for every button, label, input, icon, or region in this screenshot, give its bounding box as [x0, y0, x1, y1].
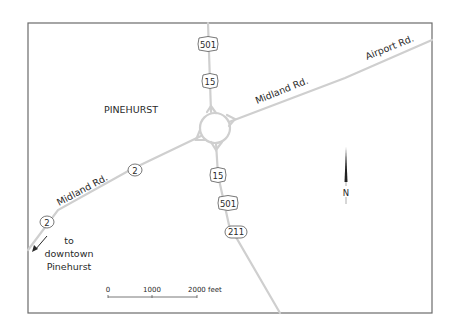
scale-tick-2000: 2000 feet — [188, 286, 222, 294]
shield-text: 2 — [132, 166, 137, 176]
shield-text: 211 — [228, 227, 244, 237]
shield-nc211: 211 — [225, 226, 247, 238]
scale-tick-1000: 1000 — [143, 286, 161, 294]
shield-nc2-west: 2 — [40, 216, 54, 228]
direction-note-line2: downtown — [45, 248, 94, 259]
shield-us501-north: 501 — [198, 37, 218, 52]
shield-us15-south: 15 — [210, 168, 226, 183]
shield-text: 2 — [44, 218, 49, 228]
shield-us15-north: 15 — [202, 74, 218, 89]
direction-note-line1: to — [64, 235, 74, 246]
scale-tick-0: 0 — [106, 286, 110, 294]
shield-text: 15 — [213, 171, 224, 181]
shield-text: 15 — [205, 77, 216, 87]
place-label-pinehurst: PINEHURST — [104, 104, 158, 115]
shield-nc2-east: 2 — [128, 164, 142, 176]
shield-text: 501 — [220, 199, 236, 209]
direction-note-line3: Pinehurst — [47, 261, 92, 272]
shield-text: 501 — [200, 40, 216, 50]
north-label: N — [343, 188, 349, 198]
shield-us501-south: 501 — [218, 196, 238, 211]
map-canvas: 501 15 15 501 211 2 2 PINEHURST Midland … — [0, 0, 457, 330]
